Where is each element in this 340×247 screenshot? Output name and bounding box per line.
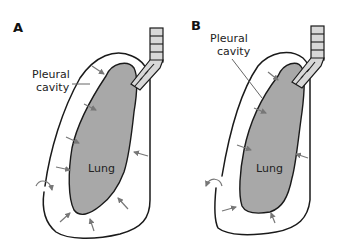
diagram-canvas: A Pleural cavity Lung xyxy=(0,0,340,247)
pleural-cavity-label-a: Pleural xyxy=(32,68,70,81)
lung-label-a: Lung xyxy=(88,162,115,175)
panel-a-label: A xyxy=(13,20,23,35)
lung-label-b: Lung xyxy=(256,162,283,175)
trachea-a xyxy=(131,28,163,90)
lung-a xyxy=(69,63,136,214)
panel-b: B Pleural cavity Lung xyxy=(191,18,324,235)
trachea-b xyxy=(292,26,324,88)
lung-b xyxy=(240,63,304,213)
panel-b-label: B xyxy=(191,18,201,33)
pleural-cavity-label-a-line2: cavity xyxy=(36,81,70,94)
curved-arrow-b xyxy=(206,179,222,186)
curved-arrow-a xyxy=(36,181,52,190)
leader-line-b xyxy=(232,59,262,98)
pleural-cavity-label-b-line2: cavity xyxy=(217,45,251,58)
panel-a: A Pleural cavity Lung xyxy=(13,20,163,238)
pleural-cavity-label-b: Pleural xyxy=(210,32,248,45)
